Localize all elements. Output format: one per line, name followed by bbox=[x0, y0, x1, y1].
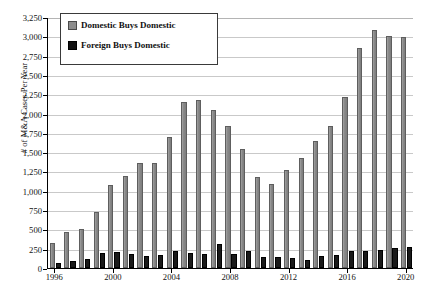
bar-domestic-buys-domestic bbox=[196, 100, 201, 268]
y-axis-tick-label: 1,000 bbox=[23, 187, 42, 197]
y-axis-tick-label: 3,000 bbox=[23, 32, 42, 42]
bar-domestic-buys-domestic bbox=[284, 170, 289, 268]
y-axis-tick-label: 250 bbox=[29, 245, 42, 255]
bar-foreign-buys-domestic bbox=[56, 263, 61, 268]
bar-domestic-buys-domestic bbox=[79, 229, 84, 268]
y-axis-tick-label: 2,750 bbox=[23, 52, 42, 62]
bar-foreign-buys-domestic bbox=[261, 257, 266, 268]
bar-group bbox=[326, 18, 341, 268]
x-axis-tick-label: 2000 bbox=[104, 272, 121, 282]
x-axis-tick-label: 1996 bbox=[46, 272, 63, 282]
x-axis-tick-label: 2020 bbox=[397, 272, 414, 282]
bar-group bbox=[238, 18, 253, 268]
bar-domestic-buys-domestic bbox=[269, 184, 274, 268]
bar-domestic-buys-domestic bbox=[299, 158, 304, 268]
bar-domestic-buys-domestic bbox=[240, 149, 245, 268]
bar-group bbox=[253, 18, 268, 268]
bar-domestic-buys-domestic bbox=[137, 163, 142, 268]
bar-foreign-buys-domestic bbox=[202, 254, 207, 268]
bar-domestic-buys-domestic bbox=[181, 102, 186, 268]
x-axis-tick-label: 2016 bbox=[339, 272, 356, 282]
x-axis-tick-labels: 1996200020042008201220162020 bbox=[47, 269, 413, 291]
bar-foreign-buys-domestic bbox=[319, 256, 324, 268]
bar-domestic-buys-domestic bbox=[167, 137, 172, 268]
bar-domestic-buys-domestic bbox=[357, 48, 362, 268]
y-axis-tick-label: 1,750 bbox=[23, 129, 42, 139]
bar-foreign-buys-domestic bbox=[378, 250, 383, 268]
bar-domestic-buys-domestic bbox=[225, 126, 230, 268]
y-axis-tick-label: 3,250 bbox=[23, 13, 42, 23]
x-axis-tick-label: 2008 bbox=[221, 272, 238, 282]
y-axis-tick-label: 2,000 bbox=[23, 110, 42, 120]
bar-group bbox=[297, 18, 312, 268]
bar-group bbox=[224, 18, 239, 268]
bar-foreign-buys-domestic bbox=[188, 253, 193, 268]
y-axis-tick-label: 500 bbox=[29, 225, 42, 235]
bar-foreign-buys-domestic bbox=[334, 255, 339, 268]
bar-domestic-buys-domestic bbox=[50, 243, 55, 268]
ma-cases-bar-chart: # of M&A Cases Per Year 02505007501,0001… bbox=[0, 0, 427, 298]
bar-foreign-buys-domestic bbox=[349, 251, 354, 268]
legend-label-domestic: Domestic Buys Domestic bbox=[81, 20, 175, 30]
legend-swatch-foreign-icon bbox=[68, 41, 77, 50]
bar-domestic-buys-domestic bbox=[108, 185, 113, 268]
bar-group bbox=[355, 18, 370, 268]
bar-domestic-buys-domestic bbox=[372, 30, 377, 268]
y-axis-tick-label: 750 bbox=[29, 206, 42, 216]
bar-foreign-buys-domestic bbox=[290, 258, 295, 268]
bar-foreign-buys-domestic bbox=[231, 254, 236, 268]
bar-domestic-buys-domestic bbox=[342, 97, 347, 268]
bar-domestic-buys-domestic bbox=[152, 163, 157, 268]
x-axis-tick-label: 2004 bbox=[163, 272, 180, 282]
y-axis-tick-label: 2,500 bbox=[23, 71, 42, 81]
y-axis-tick-label: 1,500 bbox=[23, 148, 42, 158]
bar-foreign-buys-domestic bbox=[363, 251, 368, 268]
x-axis-tick-label: 2012 bbox=[280, 272, 297, 282]
bar-foreign-buys-domestic bbox=[407, 247, 412, 268]
legend-label-foreign: Foreign Buys Domestic bbox=[81, 40, 170, 50]
bar-foreign-buys-domestic bbox=[129, 254, 134, 268]
bar-group bbox=[312, 18, 327, 268]
bar-foreign-buys-domestic bbox=[85, 259, 90, 268]
y-axis-tick-label: 0 bbox=[38, 264, 42, 274]
y-axis-tick-labels: 02505007501,0001,2501,5001,7502,0002,250… bbox=[0, 18, 47, 269]
bar-group bbox=[370, 18, 385, 268]
bar-foreign-buys-domestic bbox=[217, 244, 222, 268]
bar-domestic-buys-domestic bbox=[313, 141, 318, 268]
bar-domestic-buys-domestic bbox=[386, 36, 391, 268]
y-axis-tick-label: 2,250 bbox=[23, 90, 42, 100]
bar-domestic-buys-domestic bbox=[401, 37, 406, 268]
bar-foreign-buys-domestic bbox=[246, 251, 251, 268]
bar-foreign-buys-domestic bbox=[392, 248, 397, 268]
y-axis-tick-label: 1,250 bbox=[23, 167, 42, 177]
legend-item-domestic: Domestic Buys Domestic bbox=[68, 20, 217, 30]
bar-foreign-buys-domestic bbox=[158, 255, 163, 268]
bar-foreign-buys-domestic bbox=[100, 253, 105, 268]
bar-foreign-buys-domestic bbox=[114, 252, 119, 268]
bar-group bbox=[385, 18, 400, 268]
bar-foreign-buys-domestic bbox=[173, 251, 178, 268]
bar-foreign-buys-domestic bbox=[144, 256, 149, 268]
bar-foreign-buys-domestic bbox=[305, 260, 310, 268]
bar-domestic-buys-domestic bbox=[211, 110, 216, 268]
bar-domestic-buys-domestic bbox=[328, 126, 333, 268]
bar-foreign-buys-domestic bbox=[70, 261, 75, 268]
bar-group bbox=[268, 18, 283, 268]
bar-group bbox=[341, 18, 356, 268]
bar-foreign-buys-domestic bbox=[275, 257, 280, 268]
bar-group bbox=[399, 18, 414, 268]
chart-legend: Domestic Buys Domestic Foreign Buys Dome… bbox=[60, 13, 218, 65]
bar-domestic-buys-domestic bbox=[94, 212, 99, 268]
bar-domestic-buys-domestic bbox=[64, 232, 69, 268]
legend-item-foreign: Foreign Buys Domestic bbox=[68, 40, 217, 50]
bar-domestic-buys-domestic bbox=[123, 176, 128, 268]
bar-domestic-buys-domestic bbox=[255, 177, 260, 268]
bar-group bbox=[282, 18, 297, 268]
legend-swatch-domestic-icon bbox=[68, 21, 77, 30]
